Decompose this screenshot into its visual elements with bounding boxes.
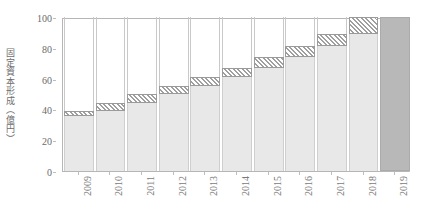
y-axis-tick-label: 40 (42, 105, 52, 116)
y-axis-tick-mark (53, 80, 56, 81)
plot-area (62, 18, 410, 172)
x-axis-tick-label-2015: 2015 (272, 176, 283, 196)
bar-2009 (64, 17, 94, 171)
bar-segment-cumulative (64, 116, 94, 171)
bar-2014 (222, 17, 252, 171)
x-axis-tick-mark (109, 172, 110, 175)
bar-segment-cumulative (349, 34, 379, 171)
bar-segment-increment (159, 86, 189, 94)
bar-segment-cumulative (254, 68, 284, 171)
bar-segment-increment (285, 46, 315, 57)
bar-segment-cumulative (317, 46, 347, 171)
x-axis-tick-label-2013: 2013 (208, 176, 219, 196)
x-axis-tick-label-2011: 2011 (145, 176, 156, 196)
x-axis-tick-mark (78, 172, 79, 175)
x-axis-tick-label-2018: 2018 (367, 176, 378, 196)
bar-2019 (380, 17, 410, 171)
x-axis-tick-mark (236, 172, 237, 175)
bar-2011 (127, 17, 157, 171)
x-axis-tick-mark (204, 172, 205, 175)
bar-segment-increment (222, 68, 252, 77)
y-axis-tick-label: 100 (37, 13, 52, 24)
bar-segment-cumulative (96, 111, 126, 171)
x-axis-tick-mark (299, 172, 300, 175)
x-axis-tick-label-2019: 2019 (398, 176, 409, 196)
bar-segment-increment (190, 77, 220, 86)
y-axis-tick-mark (53, 49, 56, 50)
y-axis-tick-mark (53, 18, 56, 19)
y-axis-tick-mark (53, 141, 56, 142)
x-axis-tick-mark (331, 172, 332, 175)
bar-2010 (96, 17, 126, 171)
y-axis-tick-mark (53, 172, 56, 173)
bar-segment-increment (317, 34, 347, 46)
x-axis-tick-label-2017: 2017 (335, 176, 346, 196)
x-axis-tick-label-2016: 2016 (303, 176, 314, 196)
y-axis-tick-labels: 020406080100 (18, 0, 56, 222)
bar-segment-cumulative (190, 86, 220, 171)
x-axis-tick-mark (173, 172, 174, 175)
y-axis-tick-label: 80 (42, 43, 52, 54)
bar-segment-cumulative (222, 77, 252, 171)
bar-segment-increment (127, 94, 157, 103)
bar-segment-cumulative (285, 57, 315, 171)
x-axis-tick-mark (363, 172, 364, 175)
bar-2016 (285, 17, 315, 171)
bar-2015 (254, 17, 284, 171)
x-axis-tick-mark (394, 172, 395, 175)
y-axis-title: 固定資本形成（億円） (2, 18, 18, 172)
bar-segment-increment (96, 103, 126, 111)
bar-2018 (349, 17, 379, 171)
bar-segment-increment (254, 57, 284, 68)
bar-segment-total (380, 17, 410, 171)
bar-2012 (159, 17, 189, 171)
x-axis-tick-label-2012: 2012 (177, 176, 188, 196)
bar-segment-increment (349, 17, 379, 34)
bar-segment-cumulative (127, 103, 157, 171)
y-axis-tick-mark (53, 110, 56, 111)
chart-figure: 固定資本形成（億円） 020406080100 2009201020112012… (0, 0, 424, 222)
bars-layer (63, 19, 409, 171)
bar-2013 (190, 17, 220, 171)
bar-segment-cumulative (159, 94, 189, 171)
y-axis-tick-label: 20 (42, 136, 52, 147)
y-axis-tick-label: 60 (42, 74, 52, 85)
bar-2017 (317, 17, 347, 171)
y-axis-tick-label: 0 (47, 167, 52, 178)
x-axis-tick-mark (141, 172, 142, 175)
x-axis-tick-label-2010: 2010 (113, 176, 124, 196)
x-axis-tick-label-2014: 2014 (240, 176, 251, 196)
x-axis-tick-label-2009: 2009 (82, 176, 93, 196)
x-axis-tick-mark (268, 172, 269, 175)
x-axis-tick-labels: 2009201020112012201320142015201620172018… (62, 172, 410, 222)
bar-segment-increment (64, 111, 94, 116)
